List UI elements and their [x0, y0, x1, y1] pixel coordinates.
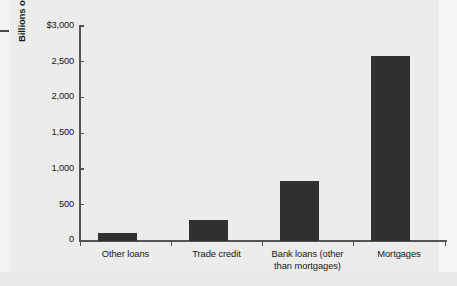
- x-axis-label-bank-loans: Bank loans (other than mortgages): [258, 248, 357, 271]
- bar-mortgages: [371, 56, 410, 241]
- bar-other-loans: [98, 233, 137, 241]
- y-tick-mark: [79, 25, 84, 26]
- y-tick-label: 1,500: [18, 127, 74, 137]
- y-tick-label: 2,000: [18, 91, 74, 101]
- y-tick-mark: [79, 204, 84, 205]
- y-tick-mark: [79, 168, 84, 169]
- y-tick-label: $3,000: [18, 20, 74, 30]
- bar-bank-loans: [280, 181, 319, 241]
- x-tick-mark: [262, 241, 263, 246]
- x-axis-label-line: Trade credit: [171, 248, 262, 260]
- x-axis-label-line: Bank loans (other: [258, 248, 357, 260]
- y-tick-label: 500: [18, 199, 74, 209]
- x-tick-mark: [353, 241, 354, 246]
- x-axis-label-trade-credit: Trade credit: [171, 248, 262, 260]
- y-tick-mark: [79, 97, 84, 98]
- y-tick-mark: [79, 133, 84, 134]
- x-axis-label-mortgages: Mortgages: [353, 248, 445, 260]
- y-tick-label: 1,000: [18, 163, 74, 173]
- y-tick-mark: [79, 61, 84, 62]
- bar-trade-credit: [189, 220, 228, 241]
- x-axis-label-line: Other loans: [80, 248, 171, 260]
- x-tick-mark: [445, 241, 446, 246]
- x-axis-label-line: Mortgages: [353, 248, 445, 260]
- x-axis-label-other-loans: Other loans: [80, 248, 171, 260]
- y-tick-label: 0: [18, 234, 74, 244]
- x-tick-mark: [171, 241, 172, 246]
- bar-chart: Billions of dollars $3,000 2,500 2,000 1…: [0, 0, 457, 286]
- y-tick-label: 2,500: [18, 56, 74, 66]
- x-tick-mark: [80, 241, 81, 246]
- x-axis-label-line: than mortgages): [258, 260, 357, 272]
